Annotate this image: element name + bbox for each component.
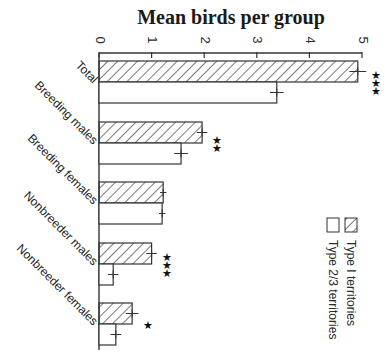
tick-label: 0: [93, 36, 108, 43]
tick-label: 4: [303, 36, 318, 43]
bar-type1: [99, 122, 202, 143]
legend-swatch-type23: [327, 218, 339, 232]
category-label: Breeding males: [32, 78, 101, 147]
legend: Type I territoriesType 2/3 territories: [326, 218, 358, 339]
category-label: Total: [73, 58, 101, 86]
bar-type1: [99, 182, 163, 203]
bar-type1: [99, 61, 358, 82]
tick-label: 5: [356, 36, 371, 43]
legend-swatch-type1: [345, 218, 357, 232]
significance-star: ★: [371, 85, 381, 97]
tick-label: 2: [198, 36, 213, 43]
legend-label-type1: Type I territories: [344, 240, 358, 326]
significance-star: ★: [212, 142, 222, 154]
bar-chart: 012345 ★★★★★★★★★ TotalBreeding malesBree…: [0, 0, 389, 361]
bar-type23: [99, 203, 162, 224]
tick-label: 3: [250, 36, 265, 43]
bar-type1: [99, 243, 152, 264]
bar-type23: [99, 143, 181, 164]
tick-label: 1: [145, 36, 160, 43]
bar-type23: [99, 82, 277, 103]
significance-star: ★: [162, 267, 172, 279]
legend-label-type23: Type 2/3 territories: [326, 240, 340, 339]
significance-star: ★: [143, 319, 153, 331]
category-labels: TotalBreeding malesBreeding femalesNonbr…: [14, 58, 101, 328]
